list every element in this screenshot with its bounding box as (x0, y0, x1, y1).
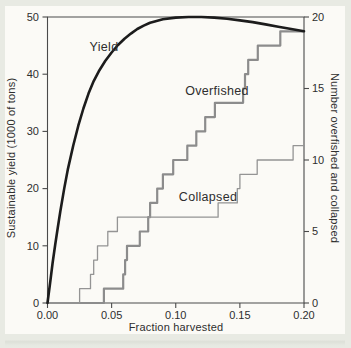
y-left-tick-label: 50 (27, 11, 39, 23)
x-tick-label: 0.15 (229, 309, 250, 321)
x-tick-label: 0.10 (165, 309, 186, 321)
y-right-tick-label: 5 (312, 225, 318, 237)
page-margin-right (345, 0, 351, 348)
y-left-tick-label: 40 (27, 68, 39, 80)
x-tick-label: 0.05 (101, 309, 122, 321)
data-series (48, 17, 305, 303)
y-right-tick-label: 20 (312, 11, 324, 23)
page-margin-top (0, 0, 351, 6)
collapsed-curve-label: Collapsed (179, 190, 237, 204)
collapsed-curve (48, 146, 305, 303)
x-tick-label: 0.20 (293, 309, 314, 321)
y-right-tick-label: 15 (312, 82, 324, 94)
curve-labels: YieldOverfishedCollapsed (90, 40, 249, 204)
x-axis-title: Fraction harvested (76, 321, 276, 333)
figure: 01020304050051015200.000.050.100.150.20 … (0, 0, 351, 348)
yield-curve-label: Yield (90, 40, 119, 54)
right-axis-title: Number overfished and collapsed (329, 38, 341, 278)
y-right-tick-label: 10 (312, 154, 324, 166)
y-left-tick-label: 20 (27, 182, 39, 194)
overfished-curve-label: Overfished (185, 84, 248, 98)
overfished-curve (48, 31, 305, 303)
y-right-tick-label: 0 (312, 297, 318, 309)
y-left-tick-label: 0 (33, 297, 39, 309)
chart-canvas: 01020304050051015200.000.050.100.150.20 … (0, 0, 351, 348)
x-tick-label: 0.00 (37, 309, 58, 321)
left-axis-title: Sustainable yield (1000 of tons) (5, 48, 17, 268)
y-left-tick-label: 30 (27, 125, 39, 137)
axis-ticks (43, 17, 310, 308)
tick-labels: 01020304050051015200.000.050.100.150.20 (27, 11, 325, 321)
y-left-tick-label: 10 (27, 240, 39, 252)
page-margin-bottom (0, 334, 351, 348)
